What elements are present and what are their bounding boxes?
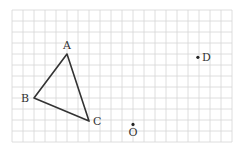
diagram-canvas: A B C O D [0, 0, 248, 156]
triangle-abc [34, 54, 89, 121]
label-a: A [62, 39, 72, 52]
label-c: C [93, 115, 101, 128]
label-o: O [128, 126, 137, 139]
label-d: D [202, 51, 211, 64]
grid-diagram: A B C O D [0, 0, 248, 156]
grid-lines [12, 10, 232, 142]
label-b: B [21, 92, 29, 105]
point-dot-d [196, 56, 199, 59]
